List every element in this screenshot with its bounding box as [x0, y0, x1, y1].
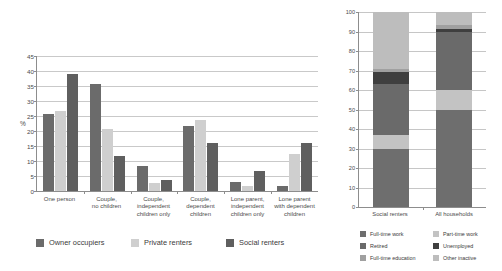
y-tick-label: 20: [349, 165, 355, 171]
y-tick-label: 15: [27, 143, 34, 150]
bar: [254, 171, 265, 191]
stack-segment: [436, 32, 472, 91]
legend-item: Social renters: [226, 238, 321, 247]
legend-item: Part-time work: [433, 228, 500, 240]
bar: [230, 182, 241, 191]
right-bar-groups: [359, 12, 486, 207]
stack-segment: [373, 84, 409, 135]
bar: [301, 143, 312, 191]
bar: [67, 74, 78, 191]
legend-label: Part-time work: [443, 231, 478, 237]
bar: [90, 84, 101, 191]
right-plot-area: 1009080706050403020100: [358, 12, 486, 208]
legend-swatch: [433, 243, 439, 249]
y-tick-label: 80: [349, 48, 355, 54]
legend-swatch: [360, 231, 366, 237]
y-tick-label: 60: [349, 87, 355, 93]
legend-label: Retired: [370, 243, 387, 249]
bar-group: [423, 12, 487, 207]
x-axis-label: Couple,independentchildren only: [130, 196, 177, 218]
bar: [149, 183, 160, 191]
bar: [161, 180, 172, 191]
legend-swatch: [433, 231, 439, 237]
y-tick-mark: [356, 207, 359, 208]
figure-root: % 454035302520151050 One personCouple,no…: [0, 0, 502, 271]
legend-label: Private renters: [144, 238, 192, 247]
legend-item: Full-time education: [360, 252, 427, 264]
y-tick-label: 35: [27, 83, 34, 90]
bar: [43, 114, 54, 191]
x-axis-label: All households: [422, 211, 486, 217]
right-x-axis-labels: Social rentersAll households: [358, 211, 486, 217]
footer-note: [4, 260, 304, 271]
legend-swatch: [226, 239, 234, 247]
legend-swatch: [131, 239, 139, 247]
bar-group: [271, 56, 318, 191]
bar-group: [131, 56, 178, 191]
y-tick-label: 40: [349, 126, 355, 132]
y-tick-label: 30: [349, 146, 355, 152]
x-tick-mark: [423, 207, 424, 210]
bar: [289, 154, 300, 192]
legend-item: Unemployed: [433, 240, 500, 252]
legend-item: Owner occupiers: [36, 238, 131, 247]
x-tick-mark: [271, 191, 272, 194]
y-tick-mark: [34, 191, 37, 192]
legend-item: Full-time work: [360, 228, 427, 240]
x-tick-mark: [177, 191, 178, 194]
y-tick-label: 70: [349, 68, 355, 74]
y-tick-label: 25: [27, 113, 34, 120]
bar: [114, 156, 125, 191]
stack-segment: [373, 149, 409, 208]
bar: [207, 143, 218, 191]
y-tick-label: 40: [27, 68, 34, 75]
grouped-bar-chart: % 454035302520151050 One personCouple,no…: [0, 0, 330, 256]
left-plot-area: 454035302520151050: [36, 56, 318, 192]
legend-swatch: [360, 243, 366, 249]
bar-group: [359, 12, 423, 207]
legend-swatch: [36, 239, 44, 247]
y-tick-label: 10: [349, 185, 355, 191]
bar: [195, 120, 206, 191]
stack-segment: [373, 12, 409, 69]
stacked-bar-chart: 1009080706050403020100 Social rentersAll…: [330, 0, 502, 271]
y-tick-label: 50: [349, 107, 355, 113]
stack-segment: [436, 90, 472, 110]
stacked-bar: [436, 12, 472, 207]
legend-label: Full-time work: [370, 231, 404, 237]
legend-label: Social renters: [239, 238, 284, 247]
legend-swatch: [433, 255, 439, 261]
x-tick-mark: [131, 191, 132, 194]
y-tick-label: 0: [352, 204, 355, 210]
bar: [55, 111, 66, 191]
legend-label: Unemployed: [443, 243, 473, 249]
x-axis-label: Couple,dependentchildren: [177, 196, 224, 218]
bar: [137, 166, 148, 191]
bar: [183, 126, 194, 191]
legend-swatch: [360, 255, 366, 261]
y-tick-label: 100: [346, 9, 355, 15]
y-tick-label: 90: [349, 29, 355, 35]
x-tick-mark: [84, 191, 85, 194]
bar: [277, 186, 288, 191]
left-y-axis-label: %: [20, 120, 26, 127]
y-tick-label: 45: [27, 53, 34, 60]
left-bar-groups: [37, 56, 318, 191]
stack-segment: [436, 110, 472, 208]
stacked-bar: [373, 12, 409, 207]
bar-group: [177, 56, 224, 191]
y-tick-label: 20: [27, 128, 34, 135]
stack-segment: [373, 72, 409, 84]
left-legend: Owner occupiersPrivate rentersSocial ren…: [36, 238, 321, 247]
x-axis-label: Lone parent,independentchildren only: [224, 196, 271, 218]
x-axis-label: Lone parentwith dependentchildren: [271, 196, 318, 218]
bar: [102, 129, 113, 191]
x-axis-label: Couple,no children: [83, 196, 130, 218]
stack-segment: [373, 135, 409, 149]
legend-label: Owner occupiers: [49, 238, 104, 247]
y-tick-label: 30: [27, 98, 34, 105]
stack-segment: [436, 12, 472, 25]
bar-group: [37, 56, 84, 191]
y-tick-label: 10: [27, 158, 34, 165]
x-tick-mark: [224, 191, 225, 194]
